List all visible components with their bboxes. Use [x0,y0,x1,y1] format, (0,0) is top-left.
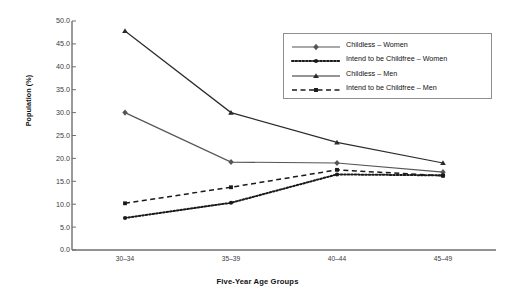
legend-swatch [290,68,342,80]
chart-legend: Childless – WomenIntend to be Childfree … [283,33,492,99]
legend-item: Childless – Women [290,38,408,52]
line-chart: Population (%) 0.05.010.015.020.025.030.… [0,0,515,298]
legend-marker-icon [290,84,342,96]
data-point-diamond [122,110,127,116]
legend-label: Childless – Women [346,41,408,48]
legend-item: Intend to be Childfree – Men [290,81,437,95]
data-point-square [441,174,445,178]
data-point-square [314,88,318,92]
legend-item: Intend to be Childfree – Women [290,52,447,66]
series-3 [123,168,445,205]
x-tick-label: 45–49 [434,255,452,262]
series-line [125,174,443,218]
data-point-square [123,201,127,205]
data-point-diamond [228,159,233,165]
x-tick-label: 40–44 [328,255,346,262]
data-point-square [335,168,339,172]
series-line [125,113,443,173]
legend-marker-icon [290,55,342,67]
legend-label: Childless – Men [346,70,397,77]
data-point-diamond [313,44,319,50]
data-point-circle [335,172,339,176]
data-point-triangle [122,28,128,33]
data-point-square [229,185,233,189]
data-point-diamond [334,160,339,166]
legend-item: Childless – Men [290,67,397,81]
legend-label: Intend to be Childfree – Men [346,84,437,91]
data-point-circle [229,201,233,205]
legend-swatch [290,53,342,65]
series-0 [122,110,445,176]
data-point-circle [314,59,318,63]
legend-swatch [290,82,342,94]
x-tick-label: 35–39 [222,255,240,262]
legend-swatch [290,39,342,51]
x-axis-title: Five-Year Age Groups [0,277,515,286]
x-axis-tick-labels: 30–3435–3940–4445–49 [0,255,515,269]
x-tick-label: 30–34 [116,255,134,262]
data-point-circle [123,216,127,220]
legend-label: Intend to be Childfree – Women [346,55,447,62]
